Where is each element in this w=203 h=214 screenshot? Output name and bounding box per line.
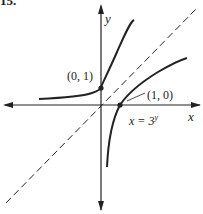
y-axis-up-arrow-icon <box>98 4 104 14</box>
point-1-0 <box>117 102 122 107</box>
point-label-1-0: (1, 0) <box>147 88 173 103</box>
point-label-0-1: (0, 1) <box>67 69 93 84</box>
problem-number: 15. <box>0 0 16 9</box>
y-axis-label: y <box>105 11 111 27</box>
curve-equation-label: x = 3y <box>129 113 158 129</box>
equation-exponent: y <box>154 113 158 122</box>
point-0-1 <box>98 85 103 90</box>
equation-base: x = 3 <box>129 114 154 128</box>
x-axis-left-arrow-icon <box>3 102 13 108</box>
x-axis-right-arrow-icon <box>191 102 201 108</box>
curve-exponential <box>39 20 134 99</box>
y-axis-down-arrow-icon <box>98 201 104 211</box>
x-axis-label: x <box>188 109 194 125</box>
graph-figure <box>0 0 203 214</box>
